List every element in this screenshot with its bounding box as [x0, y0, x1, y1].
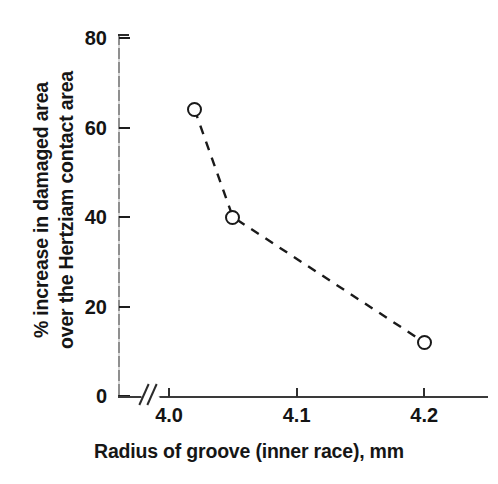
- y-axis-title-line-1: % increase in damaged area: [29, 71, 54, 349]
- y-tick-label: 0: [96, 385, 107, 408]
- y-tick-label: 60: [85, 116, 107, 139]
- y-axis-top-hook: [118, 34, 129, 36]
- figure-root: % increase in damaged area over the Hert…: [0, 0, 498, 484]
- data-point-marker: [417, 335, 432, 350]
- y-tick-label: 20: [85, 295, 107, 318]
- x-tick-label-0: 4.0: [155, 404, 183, 427]
- y-axis-title-line-2: over the Hertziam contact area: [54, 71, 79, 349]
- y-tick-label: 40: [85, 206, 107, 229]
- data-point-marker: [225, 210, 240, 225]
- y-axis-title-text: % increase in damaged area over the Hert…: [29, 71, 79, 349]
- y-tick-label: 80: [85, 27, 107, 50]
- plot-area: 0 20 40 60 80 4.0 4.1 4.2: [118, 38, 488, 396]
- data-series-line: [118, 38, 488, 396]
- x-axis-title: Radius of groove (inner race), mm: [0, 440, 498, 463]
- x-tick-label-2: 4.2: [410, 404, 438, 427]
- x-tick-label-1: 4.1: [283, 404, 311, 427]
- x-axis-line: [118, 396, 488, 398]
